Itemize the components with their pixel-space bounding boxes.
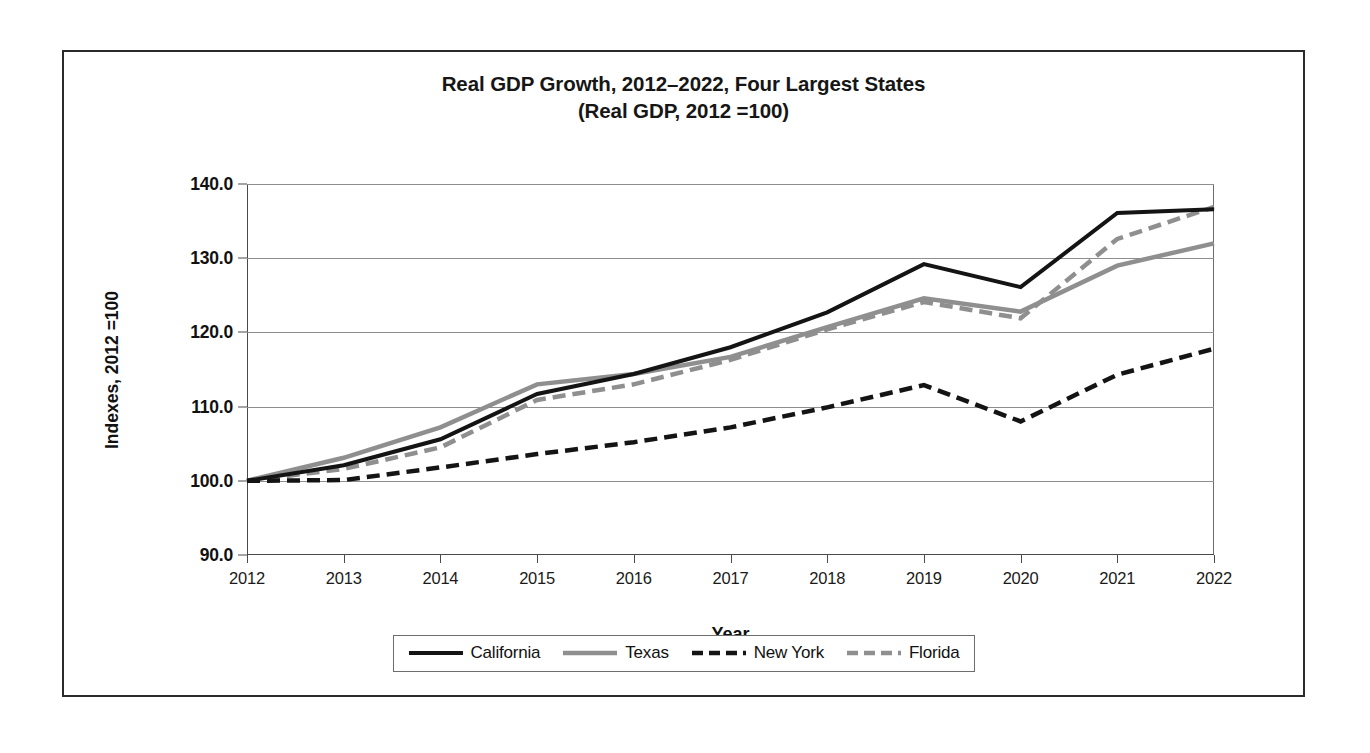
chart-title: Real GDP Growth, 2012–2022, Four Largest… — [64, 70, 1303, 124]
solid-gray-line-swatch — [562, 647, 618, 659]
chart-title-line-2: (Real GDP, 2012 =100) — [64, 97, 1303, 124]
y-tick-label: 100.0 — [190, 470, 233, 491]
x-tick-label: 2015 — [519, 569, 555, 588]
x-tick-mark — [1117, 555, 1118, 563]
series-line-new-york — [247, 349, 1214, 481]
y-tick-label: 130.0 — [190, 248, 233, 269]
x-tick-mark — [247, 555, 248, 563]
x-tick-label: 2014 — [422, 569, 458, 588]
y-tick-label: 120.0 — [190, 322, 233, 343]
y-tick-mark — [238, 258, 247, 259]
dashed-black-line-swatch — [691, 647, 747, 659]
chart-page: Real GDP Growth, 2012–2022, Four Largest… — [0, 0, 1370, 753]
x-tick-mark — [537, 555, 538, 563]
x-tick-label: 2019 — [906, 569, 942, 588]
x-tick-mark — [1021, 555, 1022, 563]
x-tick-label: 2020 — [1003, 569, 1039, 588]
x-tick-mark — [1214, 555, 1215, 563]
chart-title-line-1: Real GDP Growth, 2012–2022, Four Largest… — [442, 72, 926, 95]
x-tick-label: 2018 — [809, 569, 845, 588]
x-tick-label: 2017 — [713, 569, 749, 588]
series-lines — [247, 184, 1214, 555]
legend-item-texas[interactable]: Texas — [562, 643, 668, 663]
legend-item-california[interactable]: California — [407, 643, 540, 663]
x-tick-label: 2022 — [1196, 569, 1232, 588]
plot-area: 90.0100.0110.0120.0130.0140.0 2012201320… — [247, 184, 1214, 555]
solid-black-line-swatch — [407, 647, 463, 659]
y-tick-mark — [238, 406, 247, 407]
x-tick-mark — [731, 555, 732, 563]
x-tick-mark — [827, 555, 828, 563]
chart-legend: CaliforniaTexasNew YorkFlorida — [392, 635, 974, 672]
x-tick-mark — [344, 555, 345, 563]
chart-frame: Real GDP Growth, 2012–2022, Four Largest… — [62, 50, 1305, 697]
y-axis-title: Indexes, 2012 =100 — [102, 291, 123, 449]
legend-item-florida[interactable]: Florida — [846, 643, 960, 663]
y-tick-mark — [238, 480, 247, 481]
y-tick-label: 90.0 — [200, 545, 233, 566]
x-tick-mark — [634, 555, 635, 563]
y-tick-label: 140.0 — [190, 174, 233, 195]
series-line-california — [247, 209, 1214, 481]
y-tick-mark — [238, 184, 247, 185]
legend-label: Texas — [625, 643, 668, 663]
x-tick-label: 2013 — [326, 569, 362, 588]
legend-label: New York — [754, 643, 824, 663]
y-tick-mark — [238, 555, 247, 556]
dashed-gray-line-swatch — [846, 647, 902, 659]
x-tick-label: 2012 — [229, 569, 265, 588]
x-tick-label: 2021 — [1099, 569, 1135, 588]
x-tick-label: 2016 — [616, 569, 652, 588]
x-tick-mark — [440, 555, 441, 563]
y-tick-mark — [238, 332, 247, 333]
x-tick-mark — [924, 555, 925, 563]
legend-label: California — [470, 643, 540, 663]
legend-item-new-york[interactable]: New York — [691, 643, 824, 663]
legend-label: Florida — [909, 643, 960, 663]
y-tick-label: 110.0 — [191, 396, 233, 417]
